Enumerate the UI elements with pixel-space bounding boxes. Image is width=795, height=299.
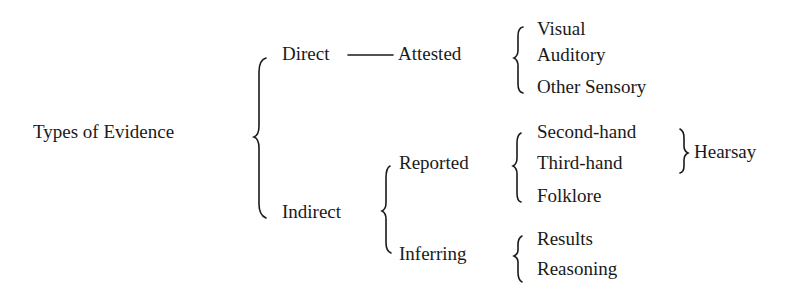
indirect-label: Indirect (282, 201, 341, 223)
inferring-label: Inferring (399, 243, 467, 265)
indirect-brace (382, 166, 391, 253)
hearsay-label: Hearsay (694, 141, 756, 163)
second-hand-label: Second-hand (537, 121, 636, 143)
reasoning-label: Reasoning (537, 258, 617, 280)
direct-label: Direct (282, 43, 329, 65)
root-brace (254, 58, 266, 218)
visual-label: Visual (537, 18, 585, 40)
attested-label: Attested (398, 43, 461, 65)
inferring-brace (514, 236, 522, 282)
root-label: Types of Evidence (33, 121, 174, 143)
hearsay-brace (680, 129, 688, 173)
results-label: Results (537, 228, 593, 250)
auditory-label: Auditory (537, 44, 606, 66)
other-sensory-label: Other Sensory (537, 76, 646, 98)
third-hand-label: Third-hand (537, 152, 622, 174)
folklore-label: Folklore (537, 185, 601, 207)
reported-brace (513, 133, 521, 202)
reported-label: Reported (399, 152, 469, 174)
attested-brace (514, 27, 523, 93)
